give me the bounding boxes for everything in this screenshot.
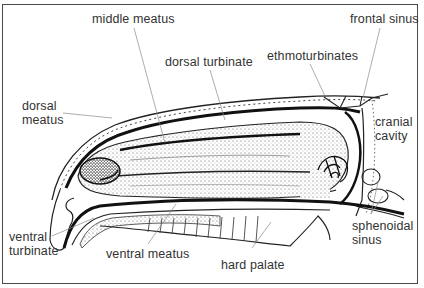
label-ventral-turbinate-line1: ventral xyxy=(9,230,47,244)
label-ventral-meatus: ventral meatus xyxy=(106,247,189,261)
label-sphenoidal-sinus-line1: sphenoidal xyxy=(352,219,413,233)
label-ventral-turbinate: ventral turbinate xyxy=(9,230,59,258)
label-sphenoidal-sinus-line2: sinus xyxy=(352,233,382,247)
label-dorsal-meatus-line1: dorsal xyxy=(22,99,57,113)
label-middle-meatus: middle meatus xyxy=(92,12,175,26)
label-dorsal-meatus: dorsal meatus xyxy=(22,99,64,127)
label-sphenoidal-sinus: sphenoidal sinus xyxy=(352,219,413,247)
label-dorsal-turbinate: dorsal turbinate xyxy=(165,55,253,69)
label-frontal-sinus: frontal sinus xyxy=(350,12,419,26)
label-hard-palate: hard palate xyxy=(221,258,285,272)
label-ethmoturbinates: ethmoturbinates xyxy=(267,49,358,63)
label-cranial-cavity: cranial cavity xyxy=(375,115,413,143)
label-ventral-turbinate-line2: turbinate xyxy=(9,244,59,258)
label-cranial-cavity-line2: cavity xyxy=(375,129,408,143)
label-cranial-cavity-line1: cranial xyxy=(375,115,413,129)
label-dorsal-meatus-line2: meatus xyxy=(22,113,64,127)
